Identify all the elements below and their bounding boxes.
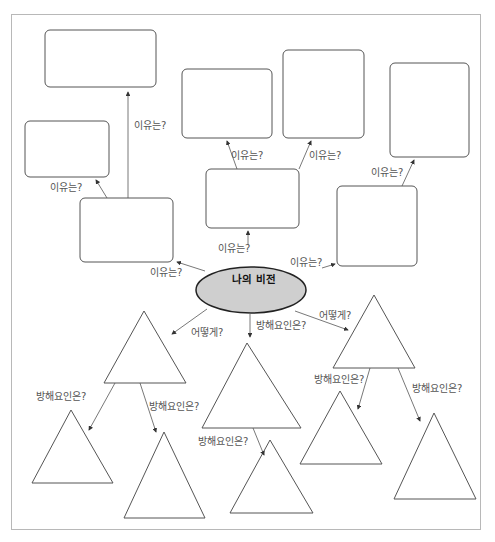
edge-label-obstacle: 방해요인은? — [256, 321, 306, 331]
edge-label-why: 이유는? — [231, 151, 263, 161]
triangle-right-bottom[interactable] — [394, 413, 476, 499]
triangle-center-bottom[interactable] — [230, 440, 313, 513]
triangle-center[interactable] — [202, 343, 301, 428]
edge-label-why: 이유는? — [134, 121, 166, 131]
box-left-mid[interactable] — [25, 121, 109, 177]
triangle-right-top[interactable] — [333, 295, 415, 368]
arrow-why-right — [402, 160, 414, 186]
box-top-left[interactable] — [45, 30, 156, 87]
box-right-mid[interactable] — [337, 186, 417, 266]
triangle-left-top[interactable] — [104, 311, 186, 383]
edge-label-why: 이유는? — [371, 168, 403, 178]
triangle-right-mid[interactable] — [300, 391, 382, 464]
arrow-obstacle-ll — [89, 383, 115, 430]
arrow-obstacle-cb — [253, 428, 264, 455]
edge-label-why: 이유는? — [50, 183, 82, 193]
box-center-top-right[interactable] — [283, 50, 364, 138]
edge-label-obstacle: 방해요인은? — [198, 437, 248, 447]
edge-label-how: 어떻게? — [319, 311, 351, 321]
edge-label-obstacle: 방해요인은? — [314, 375, 364, 385]
edge-label-how: 어떻게? — [191, 328, 223, 338]
box-right-top[interactable] — [390, 63, 469, 157]
edge-label-why: 이유는? — [309, 151, 341, 161]
triangle-left-bottom[interactable] — [32, 410, 113, 483]
center-vision-label: 나의 비전 — [232, 271, 276, 286]
edge-label-why: 이유는? — [218, 244, 250, 254]
edge-label-obstacle: 방해요인은? — [149, 402, 199, 412]
arrow-obstacle-rb — [398, 368, 420, 421]
box-center-mid[interactable] — [206, 169, 299, 228]
box-center-top-left[interactable] — [182, 69, 272, 138]
edge-label-why: 이유는? — [290, 258, 322, 268]
box-left-low[interactable] — [80, 198, 173, 262]
arrow-why-to-right-box — [322, 264, 335, 268]
edge-label-why: 이유는? — [150, 268, 182, 278]
triangle-left-bottom2[interactable] — [124, 432, 205, 518]
edge-label-obstacle: 방해요인은? — [36, 392, 86, 402]
arrow-why-left — [96, 180, 107, 198]
edge-label-obstacle: 방해요인은? — [412, 384, 462, 394]
